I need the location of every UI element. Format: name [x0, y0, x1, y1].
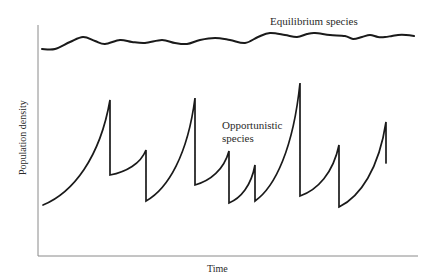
opportunistic-species-label-line2: species [222, 132, 254, 144]
population-chart: Equilibrium species Opportunistic specie… [0, 0, 428, 280]
x-axis-label: Time [207, 263, 228, 274]
equilibrium-species-curve [42, 33, 414, 50]
opportunistic-species-label-line1: Opportunistic [222, 119, 283, 131]
equilibrium-species-label: Equilibrium species [270, 15, 358, 27]
y-axis-label: Population density [17, 100, 28, 175]
chart-svg: Equilibrium species Opportunistic specie… [0, 0, 428, 280]
opportunistic-species-curve [43, 83, 386, 207]
